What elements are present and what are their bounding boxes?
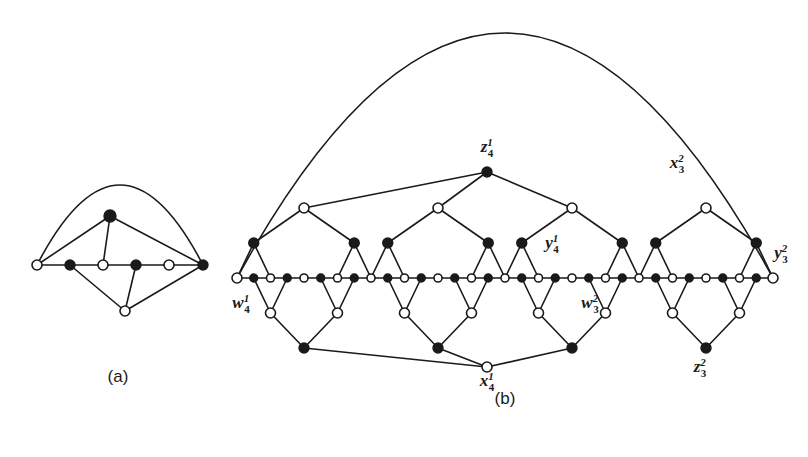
- graph-b-nodes: [232, 167, 778, 372]
- b-upper-apex-3: [701, 203, 711, 213]
- b-upper-mid-left-3: [651, 238, 661, 248]
- graph-a-nodes: [32, 210, 208, 316]
- b-edge-lower-left-up-in-2: [539, 278, 556, 313]
- b-edge-lower-apex-right-0: [304, 313, 338, 348]
- b-edge-lower-apex-left-1: [405, 313, 439, 348]
- b-edge-lower-apex-right-3: [706, 313, 740, 348]
- a-b1: [65, 260, 75, 270]
- b-edge-upper-apex-right-1: [438, 208, 488, 243]
- b-baseline-19: [551, 274, 559, 282]
- figure-root: z14x23y14y23w14w23z23x14 (a)(b): [0, 0, 808, 457]
- b-edge-lower-right-up-out-1: [472, 278, 489, 313]
- b-baseline-8: [367, 274, 375, 282]
- b-upper-mid-right-2: [617, 238, 627, 248]
- a-b0: [32, 260, 42, 270]
- b-baseline-11: [417, 274, 425, 282]
- b-edge-upper-left-down-in-2: [522, 243, 539, 278]
- b-edge-upper-left-down-out-3: [639, 243, 656, 278]
- b-baseline-24: [635, 274, 643, 282]
- caption-panel-a: (a): [108, 367, 129, 386]
- b-edge-lower-apex-left-0: [271, 313, 305, 348]
- b-edge-upper-right-down-in-2: [606, 243, 623, 278]
- vertex-label-y-1-4: y14: [543, 232, 559, 255]
- b-baseline-6: [334, 274, 342, 282]
- b-baseline-16: [501, 274, 509, 282]
- b-edge-lower-left-up-in-3: [673, 278, 690, 313]
- a-edge-b1-bottom: [70, 265, 125, 311]
- a-edge-b5-bottom: [125, 265, 203, 311]
- vertex-label-x-1-4: x14: [479, 370, 495, 393]
- b-baseline-30: [736, 274, 744, 282]
- b-upper-apex-2: [567, 203, 577, 213]
- b-edge-lower-right-up-out-3: [740, 278, 757, 313]
- b-baseline-22: [602, 274, 610, 282]
- b-edge-lower-right-up-out-2: [606, 278, 623, 313]
- b-edge-lower-apex-left-2: [539, 313, 573, 348]
- b-baseline-5: [317, 274, 325, 282]
- b-edge-upper-right-down-out-3: [756, 243, 773, 278]
- b-baseline-10: [401, 274, 409, 282]
- b-upper-mid-left-2: [517, 238, 527, 248]
- b-edge-lower-left-up-in-0: [271, 278, 288, 313]
- b-baseline-7: [350, 274, 358, 282]
- b-edge-lower-left-up-out-2: [522, 278, 539, 313]
- b-edge-lower-left-up-in-1: [405, 278, 422, 313]
- b-baseline-13: [451, 274, 459, 282]
- vertex-label-w-1-4: w14: [232, 292, 250, 315]
- b-edge-hub-top-2: [487, 172, 572, 208]
- b-baseline-2: [267, 274, 275, 282]
- b-baseline-20: [568, 274, 576, 282]
- b-edge-hub-bottom-0: [304, 348, 487, 367]
- b-edge-upper-left-down-out-2: [505, 243, 522, 278]
- b-upper-mid-right-3: [751, 238, 761, 248]
- a-edge-b2-top: [103, 216, 110, 265]
- b-edge-upper-apex-right-0: [304, 208, 354, 243]
- b-baseline-4: [300, 274, 308, 282]
- b-baseline-14: [468, 274, 476, 282]
- b-baseline-0: [232, 273, 242, 283]
- b-edge-upper-right-down-in-1: [472, 243, 489, 278]
- vertex-label-w-2-3: w23: [581, 292, 599, 315]
- b-lower-mid-left-0: [266, 308, 276, 318]
- a-b4: [164, 260, 174, 270]
- b-baseline-32: [768, 273, 778, 283]
- b-edge-upper-right-down-out-0: [354, 243, 371, 278]
- b-edge-upper-left-down-in-3: [656, 243, 673, 278]
- b-edge-lower-right-up-out-0: [338, 278, 355, 313]
- b-edge-lower-apex-right-2: [572, 313, 606, 348]
- b-lower-apex-2: [567, 343, 577, 353]
- b-lower-mid-left-3: [668, 308, 678, 318]
- b-baseline-25: [652, 274, 660, 282]
- b-upper-apex-0: [299, 203, 309, 213]
- b-baseline-31: [752, 274, 760, 282]
- b-edge-upper-right-down-in-3: [740, 243, 757, 278]
- a-b2: [98, 260, 108, 270]
- b-baseline-27: [685, 274, 693, 282]
- a-outer-arc: [37, 185, 203, 265]
- b-baseline-15: [484, 274, 492, 282]
- b-edge-upper-left-down-out-1: [371, 243, 388, 278]
- b-lower-mid-left-2: [534, 308, 544, 318]
- b-upper-apex-1: [433, 203, 443, 213]
- b-edge-upper-apex-left-1: [388, 208, 438, 243]
- b-upper-mid-left-1: [383, 238, 393, 248]
- vertex-labels: z14x23y14y23w14w23z23x14: [232, 136, 788, 393]
- figure-canvas: z14x23y14y23w14w23z23x14 (a)(b): [0, 0, 808, 457]
- b-baseline-12: [434, 274, 442, 282]
- b-baseline-21: [585, 274, 593, 282]
- b-baseline-1: [250, 274, 258, 282]
- b-edge-upper-left-down-out-0: [237, 243, 254, 278]
- b-edge-upper-left-down-in-0: [254, 243, 271, 278]
- b-baseline-23: [618, 274, 626, 282]
- b-lower-apex-3: [701, 343, 711, 353]
- b-lower-apex-1: [433, 343, 443, 353]
- b-edge-lower-left-up-out-3: [656, 278, 673, 313]
- b-upper-mid-left-0: [249, 238, 259, 248]
- z-1-4-node: [482, 167, 492, 177]
- panel-captions: (a)(b): [108, 367, 516, 408]
- b-edge-upper-left-down-in-1: [388, 243, 405, 278]
- a-bottom: [120, 306, 130, 316]
- b-lower-mid-right-1: [467, 308, 477, 318]
- b-baseline-26: [669, 274, 677, 282]
- b-edge-upper-apex-left-0: [254, 208, 304, 243]
